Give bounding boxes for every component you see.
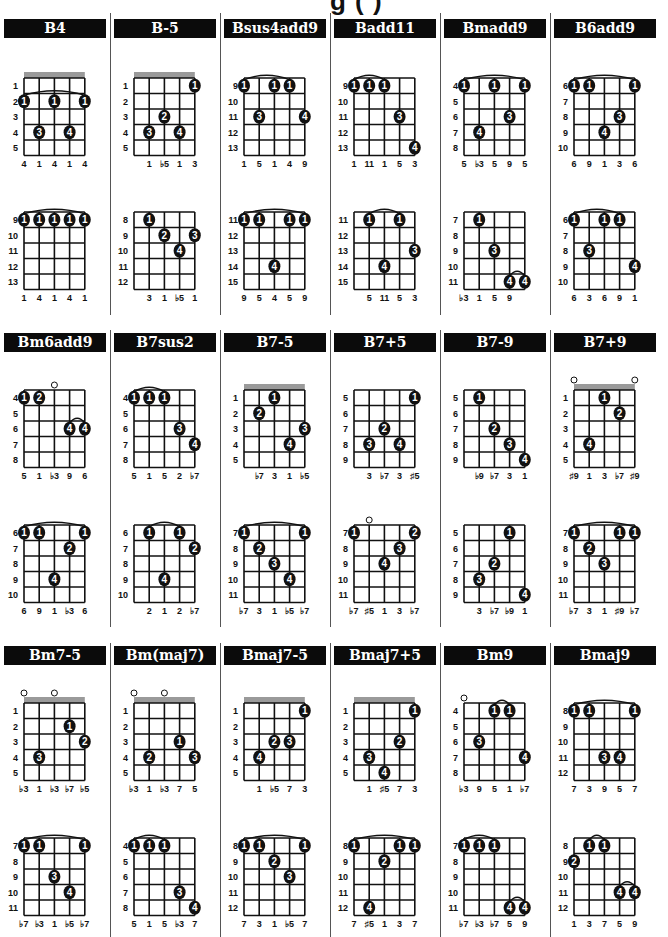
finger-dot: 4: [189, 901, 201, 915]
fret-number: 9: [453, 455, 458, 465]
svg-text:1: 1: [617, 214, 623, 225]
chord-diagram: 891011121113473957: [550, 683, 660, 803]
interval-label: 5: [522, 159, 527, 169]
svg-text:1: 1: [492, 80, 498, 91]
svg-text:1: 1: [241, 840, 247, 851]
finger-dot: 3: [598, 750, 610, 764]
chord-name-header: B7-9: [444, 333, 546, 352]
svg-text:3: 3: [287, 736, 293, 747]
fret-number: 7: [343, 528, 348, 538]
fret-number: 13: [8, 277, 18, 287]
finger-dot: 2: [79, 735, 91, 749]
interval-label: 9: [302, 293, 307, 303]
svg-text:2: 2: [272, 856, 278, 867]
interval-label: 9: [617, 293, 622, 303]
interval-label: 1: [52, 293, 57, 303]
finger-dot: 1: [598, 213, 610, 227]
finger-dot: 1: [79, 526, 91, 540]
chord-name-header: B6add9: [554, 19, 656, 38]
interval-label: ♭3: [459, 784, 468, 794]
fret-number: 13: [228, 143, 238, 153]
finger-dot: 1: [143, 391, 155, 405]
interval-label: 1: [571, 919, 576, 929]
fret-number: 1: [343, 706, 348, 716]
svg-text:1: 1: [256, 214, 262, 225]
fret-number: 2: [233, 722, 238, 732]
interval-label: 3: [412, 784, 417, 794]
interval-label: 1: [52, 606, 57, 616]
fret-number: 6: [123, 872, 128, 882]
interval-label: 7: [397, 784, 402, 794]
fret-number: 8: [563, 544, 568, 554]
fret-number: 10: [558, 872, 568, 882]
interval-label: ♭7: [65, 784, 74, 794]
fret-number: 1: [563, 393, 568, 403]
fret-number: 9: [343, 559, 348, 569]
fret-number: 4: [453, 706, 458, 716]
interval-label: 1: [382, 919, 387, 929]
chord-diagram: 45678111345152♭7: [110, 370, 220, 490]
fret-number: 6: [13, 424, 18, 434]
finger-dot: 1: [238, 79, 250, 93]
chord-diagram: 12345124♯913♭7♯9: [550, 370, 660, 490]
interval-label: ♭7: [490, 471, 499, 481]
svg-text:2: 2: [146, 752, 152, 763]
chord-diagram: 11121314151111495459: [220, 192, 330, 312]
interval-label: ♭3: [129, 784, 138, 794]
svg-text:3: 3: [52, 871, 58, 882]
finger-dot: 1: [378, 79, 390, 93]
interval-label: ♯9: [630, 471, 640, 481]
fret-number: 3: [123, 737, 128, 747]
interval-label: 9: [587, 159, 592, 169]
fret-number: 8: [563, 246, 568, 256]
fret-number: 5: [13, 768, 18, 778]
fret-number: 9: [13, 575, 18, 585]
chord-diagram: 12345123♭31♭375: [110, 683, 220, 803]
fret-number: 10: [558, 575, 568, 585]
svg-text:1: 1: [412, 392, 418, 403]
finger-dot: 4: [519, 588, 531, 602]
svg-text:1: 1: [21, 527, 27, 538]
fret-number: 3: [13, 737, 18, 747]
fret-number: 10: [228, 872, 238, 882]
interval-label: 4: [37, 293, 42, 303]
finger-dot: 1: [299, 839, 311, 853]
svg-text:3: 3: [192, 230, 198, 241]
fret-number: 4: [123, 128, 128, 138]
interval-label: 1: [382, 606, 387, 616]
finger-dot: 4: [473, 125, 485, 139]
svg-text:4: 4: [287, 439, 293, 450]
finger-dot: 3: [598, 557, 610, 571]
svg-text:2: 2: [192, 543, 198, 554]
finger-dot: 2: [488, 557, 500, 571]
fret-number: 4: [453, 81, 458, 91]
finger-dot: 4: [519, 453, 531, 467]
fret-number: 11: [448, 903, 458, 913]
fret-number: 8: [453, 857, 458, 867]
finger-dot: 1: [568, 213, 580, 227]
fret-number: 9: [343, 455, 348, 465]
interval-label: ♭5: [175, 293, 184, 303]
interval-label: 3: [587, 606, 592, 616]
finger-dot: 1: [128, 391, 140, 405]
finger-dot: 2: [158, 110, 170, 124]
finger-dot: 3: [253, 110, 265, 124]
interval-label: 7: [241, 919, 246, 929]
fret-number: 10: [228, 575, 238, 585]
fret-number: 5: [563, 455, 568, 465]
svg-text:4: 4: [256, 752, 262, 763]
fret-number: 12: [338, 128, 348, 138]
fret-number: 11: [228, 590, 238, 600]
svg-text:4: 4: [507, 902, 513, 913]
chord-name-header: Bmaj7+5: [334, 646, 436, 665]
interval-label: 1: [587, 471, 592, 481]
finger-dot: 4: [519, 750, 531, 764]
interval-label: ♭9: [505, 606, 514, 616]
finger-dot: 1: [409, 839, 421, 853]
fret-number: 7: [453, 841, 458, 851]
fret-number: 9: [123, 575, 128, 585]
finger-dot: 2: [268, 735, 280, 749]
interval-label: 3: [397, 919, 402, 929]
finger-dot: 2: [378, 422, 390, 436]
finger-dot: 1: [583, 704, 595, 718]
